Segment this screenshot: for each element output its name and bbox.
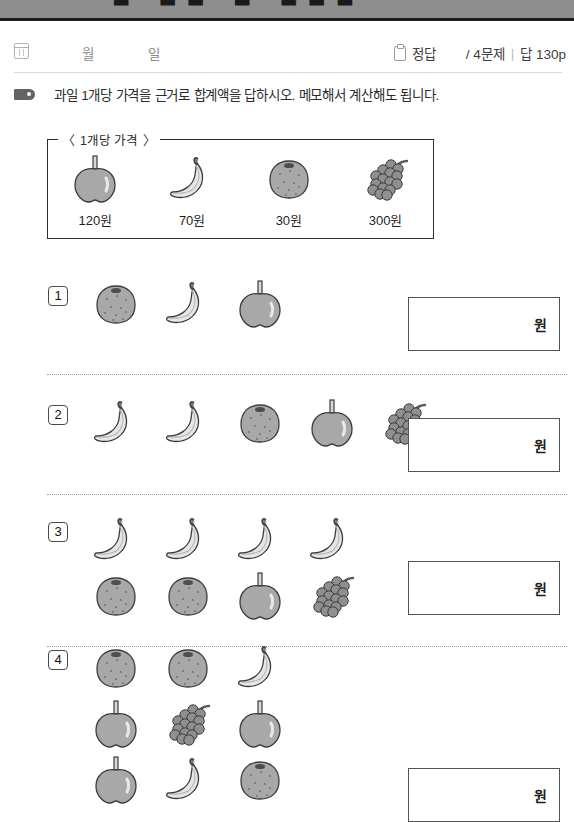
price-item: 70원 [144,150,241,242]
price-value: 30원 [276,210,302,229]
price-item: 30원 [241,150,338,242]
price-panel-label: 〈 1개당 가격 〉 [58,131,160,148]
problem-separator [47,494,567,495]
problem-number-badge: 3 [48,522,68,542]
price-item: 300원 [337,150,434,242]
score-info-group: 정답 / 4문제 | 답 130p [394,43,566,63]
grapes-icon [361,150,411,208]
banner-bottom-edge [0,18,574,21]
fruit-row [80,395,440,451]
orange-icon [224,757,296,803]
orange-icon [152,645,224,691]
problem-number-badge: 4 [48,650,68,670]
fruit-row [80,640,296,696]
fruit-group [80,640,296,808]
answer-page-ref: 답 130p [520,43,566,63]
fruit-row [80,752,296,808]
problem-separator [47,374,567,375]
apple-icon [80,699,152,749]
month-label: 월 [82,43,94,63]
fruit-group [80,512,368,624]
fruit-group [80,395,440,451]
banana-icon [80,399,152,447]
clipboard-icon [394,46,406,61]
apple-icon [224,571,296,621]
orange-icon [80,645,152,691]
currency-unit-label: 원 [534,578,547,598]
apple-icon [224,279,296,329]
price-item: 120원 [47,150,144,242]
fruit-row [80,696,296,752]
currency-unit-label: 원 [534,435,547,455]
date-entry-group[interactable] [14,43,29,59]
banana-icon [152,516,224,564]
banana-icon [224,516,296,564]
banana-icon [152,756,224,804]
price-value: 120원 [79,210,113,229]
banana-icon [224,644,296,692]
instruction-row: 과일 1개당 가격을 근거로 합계액을 답하시오. 메모해서 계산해도 됩니다. [14,82,564,106]
fruit-row [80,512,368,568]
answer-input-box[interactable]: 원 [408,297,560,351]
orange-icon [80,573,152,619]
meta-separator: | [511,46,514,61]
banner-ghost-text: ■ ■■ ■ ■■■ [112,0,364,14]
orange-icon [266,150,312,208]
banana-icon [80,516,152,564]
fruit-group [80,276,296,332]
apple-icon [296,398,368,448]
header-divider [14,72,562,73]
fruit-row [80,276,296,332]
currency-unit-label: 원 [534,785,547,805]
bracket-left: 〈 [62,130,75,149]
currency-unit-label: 원 [534,314,547,334]
apple-icon [72,150,118,208]
cut-off-title-banner: ■ ■■ ■ ■■■ [0,0,574,18]
calendar-icon [14,43,29,59]
grapes-icon [296,572,368,620]
answer-input-box[interactable]: 원 [408,418,560,472]
meta-row: 월 일 정답 / 4문제 | 답 130p [0,40,574,70]
bracket-right: 〉 [143,130,156,149]
price-list: 120원 70원 30원 300원 [47,150,434,242]
grapes-icon [152,700,224,748]
orange-icon [152,573,224,619]
tag-icon [14,89,35,100]
problem-number-badge: 1 [48,286,68,306]
instruction-text: 과일 1개당 가격을 근거로 합계액을 답하시오. 메모해서 계산해도 됩니다. [54,84,439,104]
banana-icon [167,150,217,208]
problem-number-badge: 2 [48,405,68,425]
fruit-row [80,568,368,624]
problem-count: / 4문제 [466,43,505,63]
price-value: 70원 [179,210,205,229]
answer-input-box[interactable]: 원 [408,768,560,822]
price-panel-title: 1개당 가격 [80,130,138,149]
apple-icon [80,755,152,805]
banana-icon [296,516,368,564]
day-label: 일 [148,43,160,63]
apple-icon [224,699,296,749]
answer-label: 정답 [412,43,436,63]
orange-icon [224,400,296,446]
orange-icon [80,281,152,327]
banana-icon [152,280,224,328]
price-value: 300원 [369,210,403,229]
banana-icon [152,399,224,447]
answer-input-box[interactable]: 원 [408,561,560,615]
